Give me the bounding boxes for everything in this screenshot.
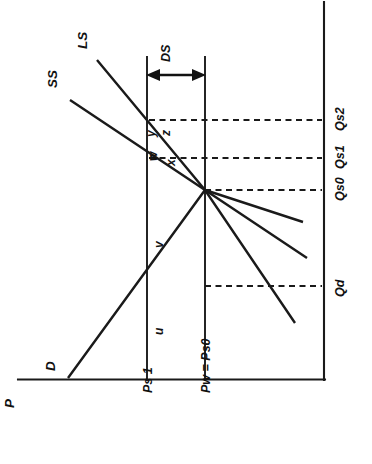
quantity-tick-label-qs0: Qs0 [333,177,347,201]
quantity-tick-label-qs1: Qs1 [333,145,347,169]
curve-ss [70,100,307,258]
curve-label-ls: LS [75,32,90,49]
area-label-w: w [146,151,160,161]
area-label-y: y [144,129,158,138]
price-axis-label: P [2,398,17,408]
price-tick-label-ps0: Pw = Ps0 [199,338,213,393]
price-tick-label-ps1: Ps 1 [141,367,155,393]
curve-label-d: D [43,361,58,371]
ds-span-arrow [146,69,206,81]
area-label-v: v [152,240,166,248]
ds-label: DS [159,44,173,62]
supply-demand-diagram: P SS LS D Ps 1 Pw = Ps0 Qd Qs0 Qs1 Qs2 D… [0,0,372,464]
quantity-tick-label-qd: Qd [333,279,347,297]
area-label-z: z [159,130,173,137]
quantity-tick-label-qs2: Qs2 [333,107,347,131]
curve-ls [97,60,295,323]
area-label-x: x [164,158,178,167]
diagram-canvas: P SS LS D Ps 1 Pw = Ps0 Qd Qs0 Qs1 Qs2 D… [0,0,372,464]
area-label-u: u [152,327,166,335]
curve-label-ss: SS [45,70,60,88]
